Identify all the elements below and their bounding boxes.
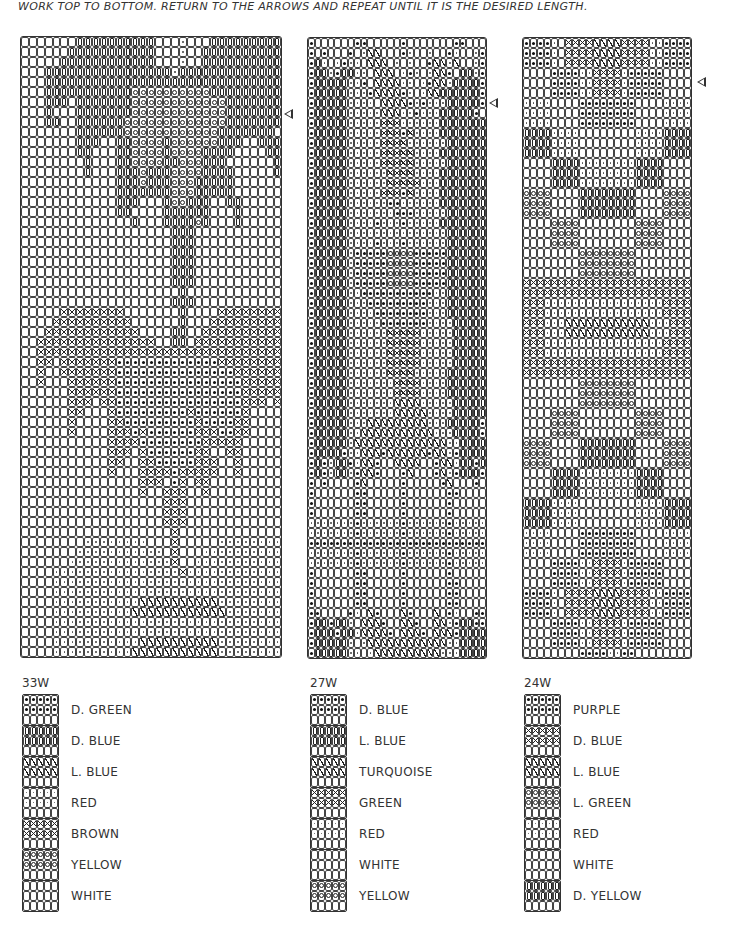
bar-icon	[334, 238, 341, 248]
diagonal-icon	[600, 608, 607, 618]
small-dot-icon	[586, 618, 593, 628]
small-dot-icon	[361, 348, 368, 358]
dot-icon	[400, 468, 407, 478]
diagonal-icon	[374, 638, 381, 648]
cross-icon	[537, 318, 544, 328]
circle-icon	[318, 891, 325, 901]
blank-cell	[258, 447, 266, 457]
small-dot-icon	[187, 627, 195, 637]
cross-icon	[274, 357, 282, 367]
dot-icon	[308, 508, 315, 518]
blank-cell	[155, 517, 163, 527]
blank-cell	[60, 227, 68, 237]
cross-icon	[381, 138, 388, 148]
small-dot-icon	[202, 577, 210, 587]
circle-icon	[400, 268, 407, 278]
blank-cell	[663, 578, 670, 588]
circle-icon	[537, 208, 544, 218]
small-dot-icon	[250, 637, 258, 647]
cross-icon	[600, 278, 607, 288]
blank-cell	[45, 637, 53, 647]
dot-icon	[334, 628, 341, 638]
bar-icon	[315, 368, 322, 378]
cross-icon	[407, 338, 414, 348]
diagonal-icon	[607, 588, 614, 598]
small-dot-icon	[361, 308, 368, 318]
cross-icon	[171, 507, 179, 517]
dot-icon	[387, 538, 394, 548]
bar-icon	[532, 891, 539, 901]
small-dot-icon	[341, 528, 348, 538]
small-dot-icon	[361, 398, 368, 408]
small-dot-icon	[656, 598, 663, 608]
cross-icon	[147, 467, 155, 477]
blank-cell	[147, 317, 155, 327]
blank-cell	[30, 901, 37, 911]
blank-cell	[68, 457, 76, 467]
bar-icon-swatch	[524, 880, 561, 912]
bar-icon	[332, 726, 339, 736]
blank-cell	[21, 477, 29, 487]
bar-icon	[614, 438, 621, 448]
bar-icon	[258, 87, 266, 97]
small-dot-icon	[334, 518, 341, 528]
bar-icon	[226, 87, 234, 97]
bar-icon	[92, 37, 100, 47]
bar-icon	[453, 218, 460, 228]
small-dot-icon	[642, 298, 649, 308]
small-dot-icon	[656, 348, 663, 358]
blank-cell	[600, 518, 607, 528]
blank-cell	[187, 307, 195, 317]
small-dot-icon	[427, 238, 434, 248]
blank-cell	[266, 237, 274, 247]
blank-cell	[537, 568, 544, 578]
cross-icon	[147, 457, 155, 467]
bar-icon	[453, 298, 460, 308]
blank-cell	[242, 217, 250, 227]
bar-icon	[440, 118, 447, 128]
circle-icon	[677, 458, 684, 468]
small-dot-icon	[420, 128, 427, 138]
circle-icon-swatch	[310, 880, 347, 912]
dot-icon	[407, 68, 414, 78]
circle-icon	[530, 188, 537, 198]
bar-icon	[45, 107, 53, 117]
blank-cell	[76, 507, 84, 517]
small-dot-icon	[226, 637, 234, 647]
small-dot-icon	[339, 829, 346, 839]
blank-cell	[29, 577, 37, 587]
diagonal-icon	[579, 318, 586, 328]
blank-cell	[37, 617, 45, 627]
blank-cell	[649, 388, 656, 398]
circle-icon	[537, 438, 544, 448]
small-dot-icon	[433, 428, 440, 438]
bar-icon	[466, 438, 473, 448]
dot-icon	[308, 288, 315, 298]
blank-cell	[394, 478, 401, 488]
blank-cell	[684, 78, 691, 88]
blank-cell	[663, 268, 670, 278]
dot-icon	[553, 705, 560, 715]
cross-icon	[553, 726, 560, 736]
blank-cell	[226, 267, 234, 277]
bar-icon	[473, 278, 480, 288]
blank-cell	[29, 437, 37, 447]
bar-icon	[321, 218, 328, 228]
diagonal-icon	[600, 598, 607, 608]
legend-item: RED	[524, 818, 642, 849]
bar-icon	[479, 448, 486, 458]
blank-cell	[202, 247, 210, 257]
cross-icon	[226, 317, 234, 327]
diagonal-icon	[614, 38, 621, 48]
diagonal-icon	[539, 757, 546, 767]
dot-icon	[195, 367, 203, 377]
small-dot-icon	[354, 368, 361, 378]
blank-cell	[670, 178, 677, 188]
blank-cell	[68, 247, 76, 257]
small-dot-icon	[68, 567, 76, 577]
bar-icon	[473, 358, 480, 368]
small-dot-icon	[92, 597, 100, 607]
blank-cell	[84, 247, 92, 257]
blank-cell	[420, 38, 427, 48]
dot-icon	[187, 447, 195, 457]
